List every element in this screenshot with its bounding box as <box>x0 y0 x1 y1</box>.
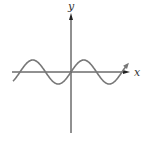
x-axis-label: x <box>134 66 141 79</box>
y-axis-arrow-icon <box>69 13 73 20</box>
x-axis-arrow-icon <box>123 70 130 74</box>
y-axis-label: y <box>67 0 75 13</box>
sine-graph: y x <box>0 0 150 142</box>
